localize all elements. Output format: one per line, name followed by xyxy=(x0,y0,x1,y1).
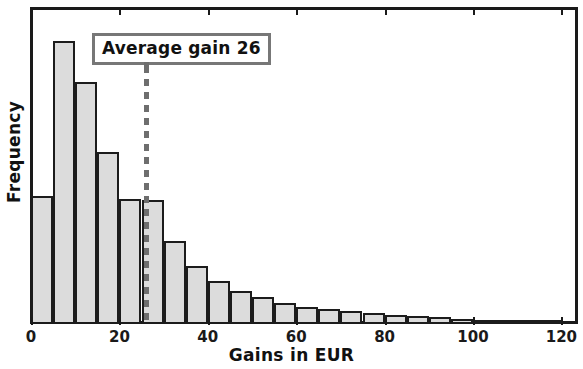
histogram-bar xyxy=(473,320,495,324)
x-tick-top xyxy=(385,7,387,15)
histogram-bar xyxy=(53,41,75,324)
histogram-bar xyxy=(164,241,186,324)
histogram-chart: Average gain 26 020406080100120 Gains in… xyxy=(0,0,583,369)
x-tick-top xyxy=(208,7,210,15)
x-tick-label: 100 xyxy=(457,328,488,346)
histogram-bar xyxy=(274,303,296,324)
x-tick-label: 40 xyxy=(197,328,218,346)
histogram-bar xyxy=(252,297,274,324)
histogram-bar xyxy=(340,311,362,324)
histogram-bar xyxy=(363,313,385,324)
histogram-bar xyxy=(75,82,97,324)
histogram-bar xyxy=(495,320,517,324)
histogram-bar xyxy=(539,320,561,324)
x-tick xyxy=(473,317,475,325)
histogram-bar xyxy=(230,291,252,324)
x-tick xyxy=(31,317,33,325)
histogram-bar xyxy=(451,319,473,324)
histogram-bar xyxy=(119,199,141,324)
x-tick xyxy=(296,317,298,325)
x-tick-label: 0 xyxy=(26,328,36,346)
histogram-bar xyxy=(407,316,429,324)
histogram-bar xyxy=(517,320,539,324)
x-tick-top xyxy=(31,7,33,15)
x-tick-label: 60 xyxy=(286,328,307,346)
x-tick xyxy=(119,317,121,325)
x-tick xyxy=(208,317,210,325)
average-gain-annotation: Average gain 26 xyxy=(92,33,271,65)
x-tick-top xyxy=(119,7,121,15)
histogram-bar xyxy=(31,196,53,324)
x-tick-top xyxy=(296,7,298,15)
x-tick-top xyxy=(473,7,475,15)
histogram-bar xyxy=(318,309,340,324)
average-gain-line xyxy=(144,40,149,322)
annotation-connector xyxy=(144,62,149,68)
histogram-bar xyxy=(385,315,407,324)
x-tick-top xyxy=(561,7,563,15)
x-tick-label: 20 xyxy=(109,328,130,346)
x-tick xyxy=(561,317,563,325)
histogram-bar xyxy=(208,281,230,324)
x-tick xyxy=(385,317,387,325)
x-tick-label: 120 xyxy=(546,328,577,346)
histogram-bar xyxy=(97,152,119,324)
y-axis-title: Frequency xyxy=(4,82,24,222)
histogram-bar xyxy=(296,307,318,324)
histogram-bar xyxy=(429,317,451,324)
x-tick-label: 80 xyxy=(374,328,395,346)
histogram-bar xyxy=(186,266,208,324)
x-axis-title: Gains in EUR xyxy=(0,345,583,365)
